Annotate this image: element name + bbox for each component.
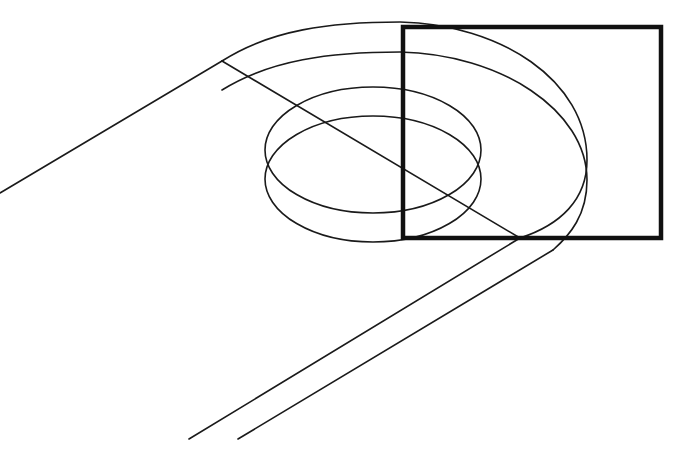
top-left-edge-line: [0, 61, 222, 193]
wireframe-svg: [0, 0, 690, 468]
hole-lower-ellipse: [265, 116, 481, 242]
bottom-edge-line-2: [238, 250, 553, 439]
bottom-edge-line-1: [189, 238, 520, 439]
drawing-canvas: [0, 0, 690, 468]
selection-rectangle[interactable]: [403, 27, 661, 238]
